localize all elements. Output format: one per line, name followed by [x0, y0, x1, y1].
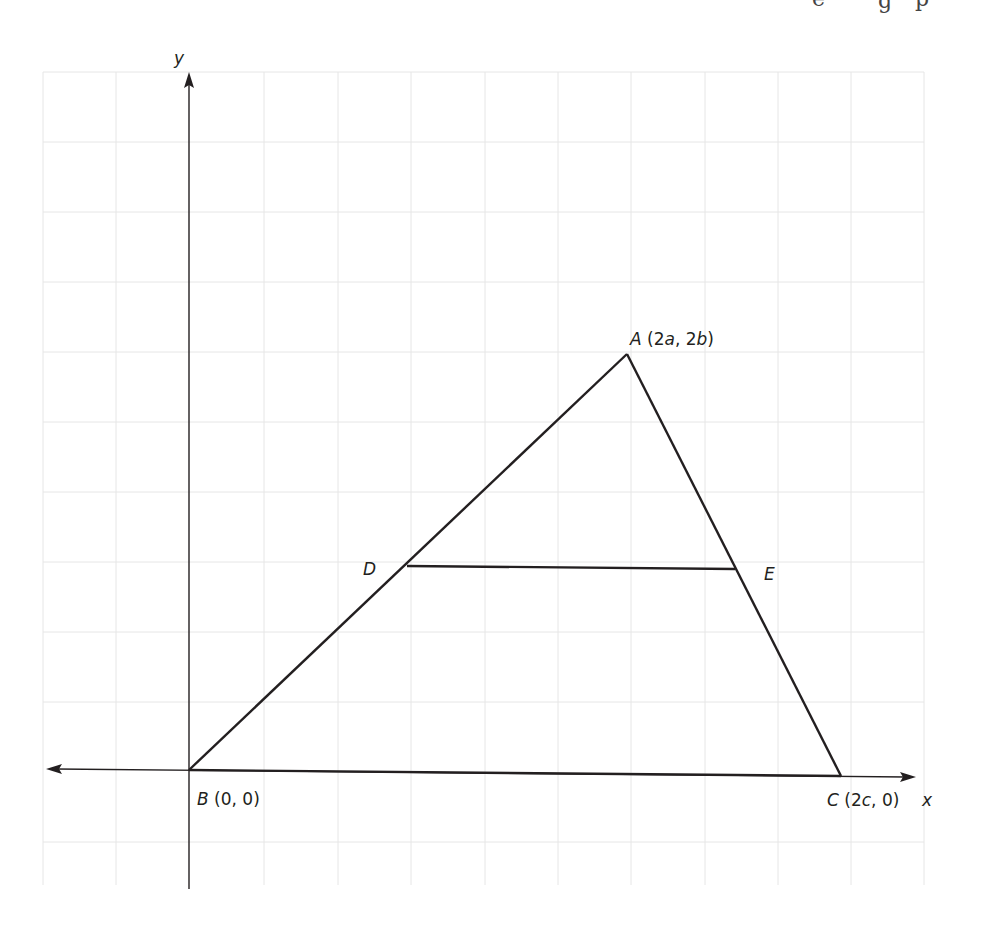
- side-ac: [627, 354, 841, 776]
- y-axis-label: y: [173, 48, 185, 68]
- x-axis-label: x: [921, 790, 933, 810]
- point-e-label: E: [764, 564, 775, 584]
- svg-text:e: e: [812, 0, 825, 11]
- side-bc: [189, 770, 841, 776]
- point-b-label: B (0, 0): [197, 789, 260, 809]
- triangle-abc: [189, 354, 841, 776]
- background-grid: [43, 72, 924, 885]
- point-a-label: A (2a, 2b): [629, 329, 714, 349]
- midsegment-de: [407, 566, 735, 569]
- triangle-midsegment-diagram: e g p: [0, 0, 986, 936]
- svg-text:p: p: [915, 0, 929, 11]
- svg-text:g: g: [878, 0, 892, 13]
- cropped-top-text: e g p: [812, 0, 929, 13]
- point-d-label: D: [363, 559, 376, 579]
- point-c-label: C (2c, 0): [827, 790, 899, 810]
